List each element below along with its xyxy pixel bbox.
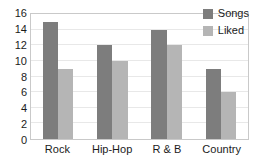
legend-swatch-icon	[203, 26, 213, 36]
y-tick-label: 0	[21, 135, 27, 146]
y-tick-label: 8	[21, 71, 27, 82]
bar-group	[43, 14, 73, 139]
bar	[97, 45, 112, 139]
legend-label: Liked	[218, 25, 244, 36]
x-tick-label: Hip-Hop	[92, 143, 132, 156]
bar	[151, 30, 166, 139]
x-axis: RockHip-HopR & BCountry	[30, 143, 249, 163]
bar-chart: 0246810121416 RockHip-HopR & BCountry So…	[0, 0, 257, 168]
bar-group	[97, 14, 127, 139]
y-tick-label: 14	[15, 23, 27, 34]
legend-item[interactable]: Liked	[203, 25, 249, 36]
legend-label: Songs	[218, 8, 249, 19]
bar	[167, 45, 182, 139]
y-tick-label: 10	[15, 55, 27, 66]
y-tick-label: 6	[21, 87, 27, 98]
y-tick-label: 12	[15, 39, 27, 50]
y-axis: 0246810121416	[0, 13, 27, 140]
y-tick-label: 16	[15, 8, 27, 19]
x-tick-label: Country	[202, 143, 241, 156]
bar	[43, 22, 58, 139]
legend-swatch-icon	[203, 9, 213, 19]
y-tick-label: 2	[21, 119, 27, 130]
x-tick-label: Rock	[45, 143, 70, 156]
bar-group	[151, 14, 181, 139]
x-tick-label: R & B	[153, 143, 182, 156]
bar	[112, 61, 127, 139]
bar	[58, 69, 73, 139]
bar	[206, 69, 221, 139]
chart-legend: SongsLiked	[203, 8, 249, 36]
y-tick-label: 4	[21, 103, 27, 114]
bar	[221, 92, 236, 139]
legend-item[interactable]: Songs	[203, 8, 249, 19]
